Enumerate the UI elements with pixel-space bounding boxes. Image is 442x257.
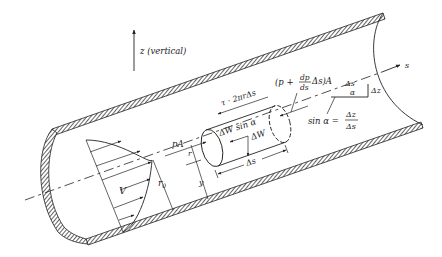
- ds-tick-right: [285, 145, 288, 153]
- pressure-suffix: Δs)A: [311, 76, 332, 86]
- pipe-left-end-wall: [41, 129, 88, 244]
- triangle-rise-label: Δz: [370, 86, 382, 95]
- triangle-angle-label: α: [350, 88, 355, 97]
- weight-label: ΔW: [249, 127, 268, 142]
- r-label: r: [188, 149, 192, 158]
- r0-label: r0: [158, 178, 166, 189]
- r-dim-line: [191, 145, 197, 164]
- z-axis: z (vertical): [134, 30, 186, 71]
- y-label: y: [198, 178, 204, 187]
- cylinder-right-face: [265, 103, 294, 145]
- velocity-label: V: [119, 185, 128, 196]
- ds-tick-left: [215, 170, 218, 178]
- velocity-arrow: [96, 151, 140, 166]
- element-length-label: Δs: [244, 156, 257, 168]
- sin-leader: [327, 97, 335, 114]
- weight-component-arrow: [230, 136, 248, 142]
- z-axis-label: z (vertical): [139, 46, 186, 56]
- pressure-force-left-label: pA: [172, 139, 184, 149]
- triangle-hyp-label: Δs: [344, 79, 355, 88]
- sin-lhs: sin α =: [308, 116, 339, 126]
- velocity-arrow: [102, 162, 151, 180]
- sin-alpha-formula: sin α = Δz Δs: [308, 110, 358, 131]
- profile-baseline: [86, 140, 123, 232]
- r0-dimension: r0: [153, 160, 173, 210]
- sin-denominator: Δs: [345, 122, 356, 131]
- velocity-profile: V: [86, 140, 152, 232]
- r-y-dimensions: r y: [186, 145, 208, 199]
- velocity-arrow: [119, 215, 134, 220]
- pressure-prefix: (p +: [275, 77, 294, 87]
- ds-arrow-right: [262, 150, 286, 159]
- sin-numerator: Δz: [345, 110, 357, 119]
- pressure-force-right-label: (p + dp ds Δs)A: [275, 73, 332, 92]
- ds-denominator: ds: [300, 83, 309, 92]
- velocity-arrow: [114, 197, 143, 208]
- pressure-force-right-arrow: [280, 106, 308, 116]
- pipe-right-end-curve: [374, 13, 423, 125]
- s-axis-arrow: [382, 65, 400, 72]
- pipe-flow-diagram: z (vertical) s V r0 pA r y: [0, 0, 442, 257]
- shear-force-label: τ · 2πrΔs: [220, 88, 257, 108]
- s-axis-label: s: [405, 61, 409, 70]
- ds-arrow-left: [218, 165, 244, 174]
- r-tick: [186, 160, 201, 165]
- inclination-triangle: Δs α Δz: [331, 79, 382, 97]
- dp-numerator: dp: [300, 73, 310, 82]
